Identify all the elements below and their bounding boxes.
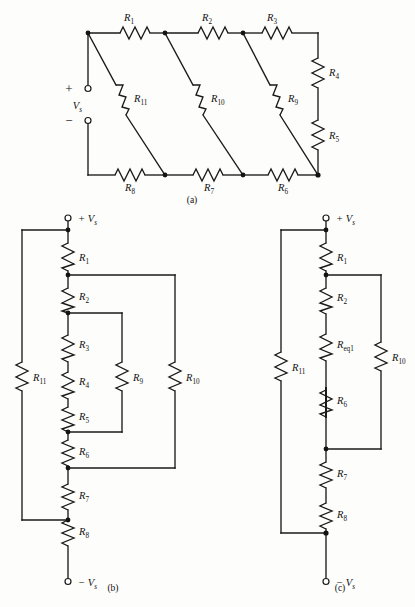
c-resistor-R8-body bbox=[320, 503, 332, 529]
a-source-minus-terminal bbox=[85, 118, 91, 124]
a-source-label: Vs bbox=[73, 100, 82, 114]
b-resistor-R10-label: R10 bbox=[185, 372, 200, 386]
b-resistor-R9-label: R9 bbox=[132, 372, 143, 386]
a-node-top-mid1 bbox=[163, 31, 168, 36]
c-resistor-R11-body bbox=[275, 352, 287, 381]
c-resistor-R7-body bbox=[320, 462, 332, 488]
c-terminal-plus bbox=[323, 215, 329, 221]
c-resistor-R1-label: R1 bbox=[336, 252, 347, 266]
b-resistor-R4-body bbox=[62, 372, 74, 399]
b-terminal-plus bbox=[65, 215, 71, 221]
b-node-r2-r3 bbox=[66, 311, 71, 316]
a-source-plus-terminal bbox=[85, 86, 91, 92]
b-resistor-R11-body bbox=[16, 362, 28, 391]
b-resistor-R2-label: R2 bbox=[78, 291, 89, 305]
b-terminal-plus-label: + Vs bbox=[78, 213, 97, 227]
c-resistor-Req1-body bbox=[320, 334, 332, 361]
a-resistor-R11-label: R11 bbox=[133, 93, 148, 107]
a-resistor-R7-body bbox=[193, 169, 223, 181]
c-terminal-minus bbox=[323, 579, 329, 585]
a-node-top-left bbox=[86, 31, 91, 36]
a-wire-diag-left-2 bbox=[126, 115, 165, 175]
a-resistor-R4-body bbox=[312, 58, 324, 88]
b-resistor-R6-body bbox=[62, 440, 74, 466]
b-resistor-R1-label: R1 bbox=[78, 252, 89, 266]
b-resistor-R3-label: R3 bbox=[78, 339, 89, 353]
a-resistor-R5-body bbox=[312, 120, 324, 150]
c-resistor-R2-body bbox=[320, 288, 332, 314]
c-node-top bbox=[324, 228, 329, 233]
a-resistor-R3-body bbox=[262, 27, 292, 39]
a-node-bottom-right bbox=[315, 172, 320, 177]
b-resistor-R8-body bbox=[62, 520, 74, 546]
a-wire-diag-right-1 bbox=[243, 33, 270, 85]
a-resistor-R2-label: R2 bbox=[201, 12, 212, 26]
circuit-figure-canvas: R1 R2 R3 R4 R5 R6 R7 R8 bbox=[0, 0, 415, 607]
c-resistor-R1-body bbox=[320, 243, 332, 271]
a-resistor-R8-body bbox=[115, 169, 145, 181]
a-resistor-R6-label: R6 bbox=[277, 182, 288, 196]
c-resistor-R8-label: R8 bbox=[336, 509, 347, 523]
b-resistor-R6-label: R6 bbox=[78, 446, 89, 460]
a-node-bottom-mid1 bbox=[163, 173, 168, 178]
b-resistor-R4-label: R4 bbox=[78, 376, 89, 390]
a-wire-diag-mid-1 bbox=[165, 33, 193, 85]
b-resistor-R3-body bbox=[62, 335, 74, 362]
b-node-r5-r6 bbox=[66, 430, 71, 435]
a-resistor-R2-body bbox=[198, 27, 228, 39]
c-node-r6-r7 bbox=[324, 447, 329, 452]
a-resistor-R1-body bbox=[120, 27, 150, 39]
b-terminal-minus bbox=[65, 579, 71, 585]
a-node-top-mid2 bbox=[241, 31, 246, 36]
a-resistor-R3-label: R3 bbox=[266, 12, 277, 26]
b-resistor-R7-label: R7 bbox=[78, 490, 89, 504]
circuit-b-group: R1 R2 R3 R4 R5 R6 R7 R8 bbox=[16, 213, 200, 594]
a-resistor-R7-label: R7 bbox=[203, 182, 214, 196]
c-resistor-Req1-label: Req1 bbox=[336, 339, 354, 353]
circuit-c-group: R1 R2 Req1 R6 R7 R8 R10 R11 bbox=[275, 213, 406, 594]
b-resistor-R2-body bbox=[62, 288, 74, 313]
b-resistor-R10-body bbox=[169, 362, 181, 391]
a-wire-diag-right-2 bbox=[280, 115, 318, 175]
a-resistor-R11-body bbox=[116, 85, 129, 115]
c-node-bottom bbox=[323, 530, 328, 535]
b-resistor-R9-body bbox=[116, 362, 128, 391]
b-node-r6-r7 bbox=[66, 466, 71, 471]
b-resistor-R5-body bbox=[62, 407, 74, 432]
c-resistor-R7-label: R7 bbox=[336, 468, 347, 482]
b-resistor-R11-label: R11 bbox=[32, 372, 47, 386]
a-resistor-R10-body bbox=[193, 85, 206, 115]
a-source-plus-sign: + bbox=[65, 81, 72, 96]
c-resistor-R10-body bbox=[375, 342, 387, 371]
b-terminal-minus-label: − Vs bbox=[78, 577, 97, 591]
a-resistor-R8-label: R8 bbox=[124, 182, 135, 196]
c-resistor-R6-label: R6 bbox=[336, 395, 347, 409]
c-resistor-R2-label: R2 bbox=[336, 292, 347, 306]
c-resistor-R10-label: R10 bbox=[391, 352, 406, 366]
c-terminal-plus-label: + Vs bbox=[336, 213, 355, 227]
caption-a: (a) bbox=[187, 195, 198, 206]
b-node-top bbox=[66, 228, 71, 233]
a-resistor-R4-label: R4 bbox=[328, 67, 339, 81]
caption-b: (b) bbox=[107, 583, 118, 594]
a-resistor-R5-label: R5 bbox=[328, 130, 339, 144]
c-node-r1-r2 bbox=[324, 273, 329, 278]
a-resistor-R6-body bbox=[268, 169, 298, 181]
b-resistor-R5-label: R5 bbox=[78, 411, 89, 425]
a-source-minus-sign: − bbox=[65, 113, 72, 128]
a-node-bottom-mid2 bbox=[241, 173, 246, 178]
a-wire-diag-mid-2 bbox=[203, 115, 243, 175]
b-resistor-R1-body bbox=[62, 243, 74, 271]
a-resistor-R10-label: R10 bbox=[210, 93, 225, 107]
figure-page: R1 R2 R3 R4 R5 R6 R7 R8 bbox=[0, 0, 415, 607]
b-node-r1-r2 bbox=[66, 273, 71, 278]
b-resistor-R7-body bbox=[62, 484, 74, 510]
c-resistor-R11-label: R11 bbox=[291, 362, 306, 376]
a-resistor-R9-body bbox=[270, 85, 283, 115]
b-resistor-R8-label: R8 bbox=[78, 526, 89, 540]
b-node-r7-r8 bbox=[66, 518, 71, 523]
a-resistor-R1-label: R1 bbox=[123, 12, 134, 26]
a-wire-diag-left-1 bbox=[88, 33, 116, 85]
caption-c: (c) bbox=[335, 583, 346, 594]
circuit-a-group: R1 R2 R3 R4 R5 R6 R7 R8 bbox=[65, 12, 339, 206]
